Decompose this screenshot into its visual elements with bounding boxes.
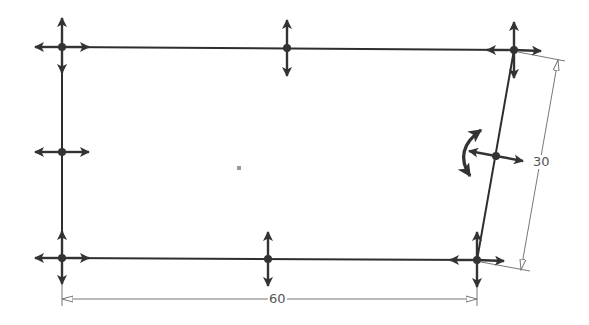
midpoint-icon [492, 152, 500, 160]
vertex-point-icon [58, 254, 66, 262]
vertex-handle-top-right[interactable] [487, 22, 541, 78]
midpoint-icon [283, 44, 291, 52]
midpoint-icon [58, 148, 66, 156]
midpoint-handle-top[interactable] [283, 20, 291, 76]
dimension-height-value[interactable]: 30 [532, 155, 551, 169]
midpoint-icon [264, 255, 272, 263]
dimension-height-extension-top [518, 52, 565, 61]
dimension-width-value[interactable]: 60 [268, 292, 287, 306]
vertex-point-icon [58, 43, 66, 51]
vertex-handle-top-left[interactable] [35, 18, 89, 73]
sketch-canvas[interactable] [0, 0, 589, 325]
vertex-handle-bottom-right[interactable] [450, 232, 504, 287]
vertex-point-icon [510, 46, 518, 54]
vertex-handle-bottom-left[interactable] [35, 231, 89, 284]
midpoint-handle-left[interactable] [35, 148, 89, 156]
midpoint-handle-right[interactable] [469, 151, 523, 161]
sketch-edges[interactable] [62, 47, 514, 260]
midpoint-handle-bottom[interactable] [264, 232, 272, 286]
vertex-point-icon [473, 256, 481, 264]
center-point[interactable] [237, 166, 241, 170]
